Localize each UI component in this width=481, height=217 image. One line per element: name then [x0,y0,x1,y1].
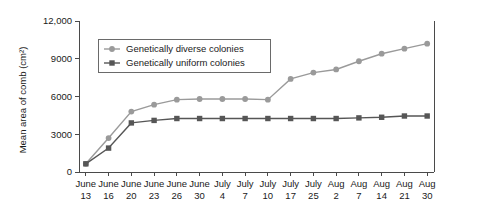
x-axis-day-label: 30 [194,190,205,201]
y-axis-tick-label: 0 [67,166,72,177]
legend-marker-icon [109,46,115,52]
x-axis-day-label: 2 [333,190,338,201]
y-axis-tick-label: 9000 [51,53,72,64]
data-point-marker [129,120,134,125]
x-axis-day-label: 10 [263,190,274,201]
x-axis-month-label: July [237,178,254,189]
line-chart: 030006000900012,000 June13June16June20Ju… [0,0,481,217]
x-axis-day-label: 20 [126,190,137,201]
data-point-marker [265,97,271,103]
x-axis-day-label: 21 [399,190,410,201]
data-point-marker [311,116,316,121]
data-point-marker [402,46,408,52]
data-point-marker [219,96,225,102]
chart-container: 030006000900012,000 June13June16June20Ju… [0,0,481,217]
x-axis-month-label: June [144,178,165,189]
data-point-marker [288,76,294,82]
data-point-marker [106,145,111,150]
x-axis-day-label: 7 [242,190,247,201]
data-point-marker [424,113,429,118]
y-axis-tick-label: 6000 [51,91,72,102]
legend-marker-icon [109,60,114,65]
data-point-marker [220,116,225,121]
x-axis-month-label: July [214,178,231,189]
legend-item-label-1: Genetically uniform colonies [126,57,245,68]
data-point-marker [174,97,180,103]
x-axis-day-label: 25 [308,190,319,201]
data-point-marker [151,102,157,108]
data-point-marker [356,115,361,120]
data-point-marker [333,116,338,121]
chart-legend: Genetically diverse coloniesGenetically … [98,39,270,72]
data-point-marker [128,109,134,115]
y-axis-tick-label: 3000 [51,129,72,140]
data-point-marker [106,135,112,141]
data-point-marker [242,96,248,102]
data-point-marker [174,116,179,121]
x-axis-day-label: 26 [172,190,183,201]
data-point-marker [424,41,430,47]
x-axis-month-label: June [189,178,210,189]
x-axis-day-label: 30 [422,190,433,201]
y-axis-tick-label: 12,000 [43,15,72,26]
data-point-marker [83,161,88,166]
data-point-marker [197,96,203,102]
data-point-marker [379,51,385,57]
x-axis-month-label: July [259,178,276,189]
series-line-1 [86,116,427,164]
data-point-marker [356,58,362,64]
x-axis-month-label: Aug [396,178,413,189]
x-axis-month-label: June [76,178,97,189]
x-axis-month-label: Aug [350,178,367,189]
x-axis-day-label: 16 [103,190,114,201]
x-axis-day-label: 13 [81,190,92,201]
data-point-marker [151,118,156,123]
x-axis-day-label: 7 [356,190,361,201]
data-point-marker [288,116,293,121]
x-axis-month-label: July [282,178,299,189]
legend-item-label-0: Genetically diverse colonies [126,43,244,54]
x-axis-day-label: 23 [149,190,160,201]
x-axis-month-label: June [121,178,142,189]
x-axis-month-label: July [305,178,322,189]
data-point-marker [242,116,247,121]
x-axis-month-label: June [98,178,119,189]
y-axis-title: Mean area of comb (cm²) [17,47,28,154]
y-axis: 030006000900012,000 [43,15,79,177]
x-axis-month-label: June [167,178,188,189]
data-point-marker [379,115,384,120]
data-point-marker [197,116,202,121]
x-axis-day-label: 17 [285,190,296,201]
x-axis-month-label: Aug [373,178,390,189]
x-axis-month-label: Aug [419,178,436,189]
x-axis-day-label: 4 [220,190,225,201]
data-point-marker [402,113,407,118]
data-point-marker [265,116,270,121]
x-axis-month-label: Aug [328,178,345,189]
x-axis-day-label: 14 [376,190,387,201]
data-point-marker [310,70,316,76]
data-point-marker [333,67,339,73]
